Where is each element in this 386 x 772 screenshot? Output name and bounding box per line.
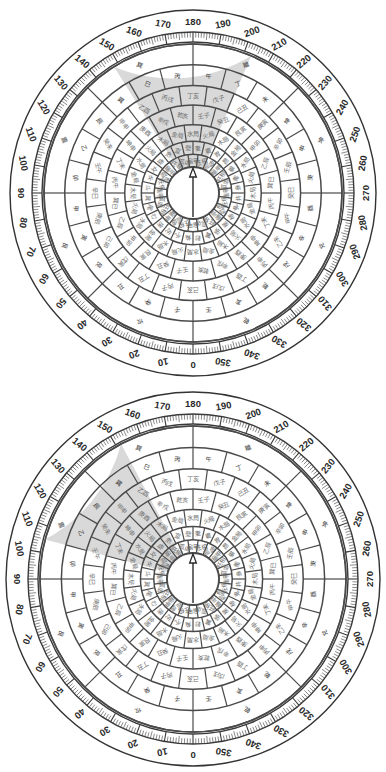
degree-label: 180 [185, 16, 201, 27]
ring-24-mountains-label: 子 [174, 306, 181, 314]
degree-label: 310 [319, 683, 338, 702]
degree-label: 340 [242, 347, 261, 363]
degree-label: 30 [98, 724, 113, 739]
ring-human-plate-label: 水局 [187, 130, 199, 138]
ring-human-plate-label: 木局 [127, 573, 135, 585]
degree-label: 240 [333, 97, 350, 116]
ring-24-dragons-label: 癸巳 [287, 187, 295, 199]
degree-label: 90 [12, 574, 23, 585]
ring-human-plate-label: 木局 [249, 187, 257, 199]
ring-28-constellations-label: 壁 [184, 530, 191, 538]
degree-label: 150 [97, 35, 116, 52]
page-root: 坎艮震巽離坤兌乾子癸丑艮寅甲卯乙辰巽巳丙午丁未坤申庚酉辛戌乾亥壬丙子丁丑戊寅己卯… [0, 0, 386, 772]
degree-label: 320 [297, 705, 316, 724]
degree-label: 120 [32, 481, 49, 500]
ring-human-plate-label: 水局 [187, 636, 199, 644]
degree-label: 330 [269, 333, 288, 350]
degree-label: 50 [54, 296, 69, 311]
degree-label: 200 [242, 23, 261, 39]
ring-24-mountains-label: 子 [174, 695, 181, 703]
degree-label: 350 [214, 356, 232, 370]
degree-label: 170 [154, 399, 172, 413]
ring-28-constellations-label: 壁 [185, 144, 192, 152]
degree-label: 30 [100, 335, 115, 350]
degree-label: 290 [351, 630, 367, 649]
degree-label: 20 [127, 348, 141, 362]
degree-label: 110 [20, 510, 36, 528]
ring-24-dragons-label: 己亥 [187, 675, 199, 683]
ring-24-dragons-label: 辛巳 [88, 573, 96, 585]
degree-label: 10 [156, 746, 168, 759]
degree-label: 230 [319, 456, 338, 475]
degree-label: 320 [294, 315, 313, 334]
ring-human-plate-label: 木局 [251, 573, 259, 585]
ring-28-constellations-label: 斗 [144, 185, 152, 192]
degree-label: 160 [123, 406, 142, 422]
degree-label: 290 [347, 242, 363, 261]
degree-label: 220 [297, 435, 316, 454]
degree-label: 240 [337, 481, 354, 500]
degree-label: 140 [70, 435, 89, 454]
ring-24-mountains-label: 壬 [205, 695, 212, 703]
degree-label: 210 [271, 418, 290, 435]
degree-label: 150 [95, 418, 114, 435]
ring-24-dragons-label: 己亥 [187, 286, 199, 294]
degree-label: 170 [154, 17, 172, 31]
degree-label: 0 [190, 750, 195, 761]
degree-label: 250 [351, 509, 367, 528]
degree-label: 310 [315, 294, 334, 313]
degree-label: 350 [215, 746, 233, 760]
ring-24-dragons-label: 辛巳 [91, 187, 99, 199]
degree-label: 40 [72, 706, 87, 721]
degree-label: 20 [126, 737, 140, 751]
degree-label: 280 [356, 214, 370, 232]
ring-28-constellations-label: 斗 [144, 570, 152, 577]
degree-label: 60 [33, 660, 48, 675]
degree-label: 190 [215, 399, 233, 413]
ring-human-plate-label: 木局 [129, 187, 137, 199]
degree-label: 70 [21, 632, 35, 646]
degree-label: 260 [356, 154, 370, 172]
degree-label: 300 [337, 657, 354, 676]
ring-24-dragons-label: 癸巳 [290, 573, 298, 585]
compass-diagram-bottom[interactable]: 坎艮震巽離坤兌乾子癸丑艮寅甲卯乙辰巽巳丙午丁未坤申庚酉辛戌乾亥壬丙子丁丑戊寅己卯… [0, 386, 386, 772]
degree-label: 80 [13, 603, 26, 615]
ring-24-dragons-label: 丁亥 [187, 92, 199, 100]
degree-label: 100 [17, 154, 31, 172]
degree-label: 10 [157, 356, 169, 369]
degree-label: 180 [185, 398, 201, 409]
ring-120-fen-jin-label: 龜甲 [187, 607, 199, 615]
degree-label: 270 [360, 185, 371, 201]
ring-120-fen-jin-label: 龜甲 [187, 221, 199, 229]
degree-label: 160 [125, 23, 144, 39]
degree-label: 190 [214, 17, 232, 31]
degree-label: 130 [49, 456, 68, 475]
degree-label: 300 [333, 269, 350, 288]
luopan-bottom[interactable]: 坎艮震巽離坤兌乾子癸丑艮寅甲卯乙辰巽巳丙午丁未坤申庚酉辛戌乾亥壬丙子丁丑戊寅己卯… [0, 386, 386, 772]
degree-label: 200 [244, 406, 263, 422]
degree-label: 100 [13, 540, 27, 558]
degree-label: 230 [315, 73, 334, 92]
degree-label: 60 [37, 272, 52, 287]
ring-human-plate-label: 水局 [187, 514, 199, 522]
ring-24-dragons-label: 丁亥 [187, 475, 199, 483]
ring-24-mountains-label: 壬 [205, 306, 212, 314]
degree-label: 330 [271, 723, 290, 740]
degree-label: 250 [347, 125, 363, 144]
degree-label: 80 [17, 217, 30, 229]
degree-label: 340 [244, 737, 263, 753]
degree-label: 260 [360, 540, 374, 558]
degree-label: 120 [35, 97, 52, 116]
compass-diagram-top[interactable]: 坎艮震巽離坤兌乾子癸丑艮寅甲卯乙辰巽巳丙午丁未坤申庚酉辛戌乾亥壬丙子丁丑戊寅己卯… [0, 0, 386, 386]
degree-label: 40 [75, 317, 90, 332]
degree-label: 270 [364, 571, 375, 587]
degree-label: 70 [24, 245, 38, 259]
degree-label: 50 [51, 685, 66, 700]
degree-label: 130 [52, 73, 71, 92]
degree-label: 0 [190, 360, 195, 371]
degree-label: 110 [24, 125, 40, 143]
degree-label: 90 [16, 188, 27, 199]
degree-label: 220 [294, 52, 313, 71]
degree-label: 210 [269, 35, 288, 52]
luopan-top[interactable]: 坎艮震巽離坤兌乾子癸丑艮寅甲卯乙辰巽巳丙午丁未坤申庚酉辛戌乾亥壬丙子丁丑戊寅己卯… [0, 0, 386, 386]
